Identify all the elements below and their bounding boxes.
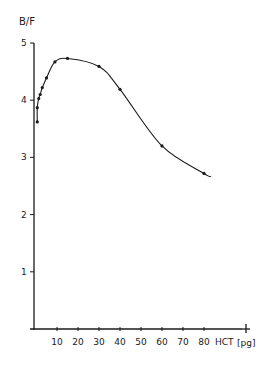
data-point — [37, 97, 40, 100]
data-point — [41, 86, 44, 89]
data-point — [202, 172, 205, 175]
data-point — [53, 60, 56, 63]
data-point — [66, 57, 69, 60]
x-axis-unit: [pg] — [237, 338, 255, 348]
x-axis-label: HCT — [215, 337, 234, 347]
data-point — [36, 120, 39, 123]
y-tick-label: 3 — [21, 152, 27, 162]
x-tick-label: 10 — [51, 337, 63, 347]
y-tick-label: 4 — [21, 95, 27, 105]
x-tick-label: 30 — [93, 337, 105, 347]
y-tick-label: 1 — [21, 267, 27, 277]
x-ticks: 1020304050607080 — [51, 327, 210, 347]
x-tick-label: 80 — [198, 337, 210, 347]
y-tick-label: 5 — [21, 38, 27, 48]
axes — [30, 43, 250, 333]
x-tick-label: 20 — [72, 337, 84, 347]
data-point — [39, 93, 42, 96]
data-point — [97, 65, 100, 68]
y-ticks: 12345 — [21, 38, 34, 277]
x-tick-label: 60 — [156, 337, 168, 347]
x-tick-label: 50 — [135, 337, 147, 347]
chart: 12345 1020304050607080 B/F HCT [pg] — [0, 0, 264, 369]
y-tick-label: 2 — [21, 210, 27, 220]
data-curve — [37, 58, 211, 176]
data-point — [36, 106, 39, 109]
x-tick-label: 70 — [177, 337, 189, 347]
data-point — [118, 88, 121, 91]
data-markers — [36, 57, 206, 175]
data-point — [160, 144, 163, 147]
x-tick-label: 40 — [114, 337, 126, 347]
data-point — [45, 76, 48, 79]
y-axis-label: B/F — [19, 16, 35, 27]
